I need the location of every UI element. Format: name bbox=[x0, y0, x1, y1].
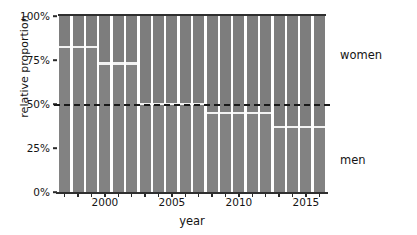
bar-segment-divider bbox=[247, 112, 258, 114]
bar-segment-divider bbox=[126, 62, 137, 64]
bar-segment-women bbox=[193, 16, 204, 104]
y-tick-mark bbox=[53, 15, 57, 17]
bar-segment-divider bbox=[99, 62, 110, 64]
bar-segment-men bbox=[113, 64, 124, 192]
bar-segment-men bbox=[86, 47, 97, 192]
bar-segment-women bbox=[180, 16, 191, 104]
bar-segment-women bbox=[59, 16, 70, 47]
y-tick-mark bbox=[53, 59, 57, 61]
bar-segment-women bbox=[153, 16, 164, 104]
bar-segment-men bbox=[247, 113, 258, 192]
bar-segment-divider bbox=[73, 46, 84, 48]
x-tick-label: 2010 bbox=[226, 196, 253, 208]
series-label-women: women bbox=[340, 48, 382, 62]
bar-segment-women bbox=[73, 16, 84, 47]
bar-segment-men bbox=[126, 64, 137, 192]
bar-segment-women bbox=[140, 16, 151, 104]
bar-segment-men bbox=[300, 127, 311, 192]
bar-segment-women bbox=[233, 16, 244, 113]
y-tick-label: 50% bbox=[6, 98, 50, 110]
bar-segment-divider bbox=[287, 126, 298, 128]
y-tick-mark bbox=[53, 147, 57, 149]
bar-segment-men bbox=[233, 113, 244, 192]
bar-segment-men bbox=[274, 127, 285, 192]
bar-segment-women bbox=[287, 16, 298, 127]
bar-segment-men bbox=[153, 104, 164, 192]
bar-segment-women bbox=[99, 16, 110, 64]
x-tick-mark bbox=[265, 193, 266, 197]
x-tick-label: 2000 bbox=[92, 196, 119, 208]
y-tick-label: 75% bbox=[6, 54, 50, 66]
bar-segment-divider bbox=[274, 126, 285, 128]
bar-segment-women bbox=[300, 16, 311, 127]
bar-segment-men bbox=[193, 104, 204, 192]
bar-segment-divider bbox=[207, 112, 218, 114]
bar-segment-women bbox=[220, 16, 231, 113]
bar-segment-men bbox=[287, 127, 298, 192]
bar-segment-divider bbox=[86, 46, 97, 48]
bar-segment-men bbox=[260, 113, 271, 192]
bar-segment-divider bbox=[220, 112, 231, 114]
x-axis-line bbox=[56, 192, 328, 194]
bar-segment-men bbox=[59, 47, 70, 192]
y-tick-label: 0% bbox=[6, 186, 50, 198]
x-tick-mark bbox=[198, 193, 199, 197]
bar-segment-women bbox=[274, 16, 285, 127]
bar-segment-women bbox=[166, 16, 177, 104]
bar-segment-men bbox=[220, 113, 231, 192]
x-axis-title: year bbox=[58, 214, 326, 228]
bar-segment-men bbox=[180, 104, 191, 192]
bar-segment-women bbox=[86, 16, 97, 47]
x-tick-label: 2015 bbox=[293, 196, 320, 208]
bar-segment-divider bbox=[300, 126, 311, 128]
x-tick-mark bbox=[77, 193, 78, 197]
bar-segment-men bbox=[73, 47, 84, 192]
x-tick-mark bbox=[211, 193, 212, 197]
bar-segment-women bbox=[126, 16, 137, 64]
x-tick-mark bbox=[144, 193, 145, 197]
bar-segment-divider bbox=[59, 46, 70, 48]
y-tick-label: 100% bbox=[6, 10, 50, 22]
bar-segment-divider bbox=[233, 112, 244, 114]
fifty-percent-reference-line bbox=[54, 104, 330, 106]
bar-segment-women bbox=[260, 16, 271, 113]
bar-segment-men bbox=[207, 113, 218, 192]
bar-segment-men bbox=[166, 104, 177, 192]
chart-container: relative proportion year 0%25%50%75%100%… bbox=[0, 0, 417, 235]
bar-segment-men bbox=[140, 104, 151, 192]
bar-segment-divider bbox=[260, 112, 271, 114]
bar-segment-women bbox=[314, 16, 325, 127]
x-tick-mark bbox=[278, 193, 279, 197]
bar-segment-men bbox=[99, 64, 110, 192]
bar-segment-divider bbox=[314, 126, 325, 128]
x-tick-label: 2005 bbox=[159, 196, 186, 208]
bar-segment-divider bbox=[113, 62, 124, 64]
x-tick-mark bbox=[131, 193, 132, 197]
series-label-men: men bbox=[340, 153, 366, 167]
y-tick-label: 25% bbox=[6, 142, 50, 154]
bar-segment-women bbox=[113, 16, 124, 64]
x-tick-mark bbox=[64, 193, 65, 197]
bar-segment-men bbox=[314, 127, 325, 192]
bar-segment-women bbox=[207, 16, 218, 113]
bar-segment-women bbox=[247, 16, 258, 113]
